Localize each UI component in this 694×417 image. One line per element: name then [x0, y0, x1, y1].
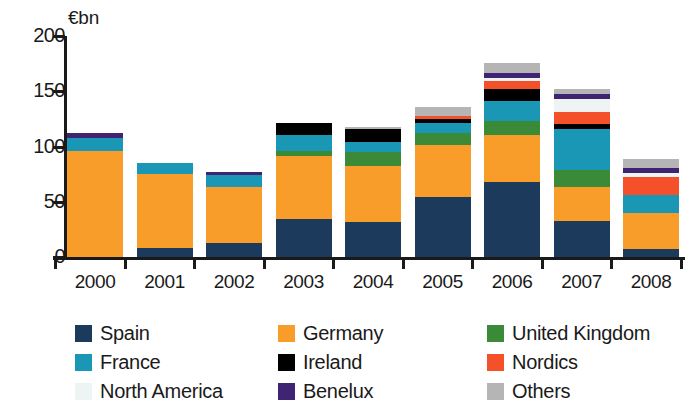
plot-area: €bn 050100150200 20002001200220032004200…: [0, 0, 694, 300]
legend-swatch-icon: [278, 354, 295, 371]
bar-segment-france: [276, 135, 332, 150]
x-axis-label-2004: 2004: [341, 272, 405, 292]
legend-item-others[interactable]: Others: [487, 378, 570, 404]
x-axis-tick-mark: [680, 260, 683, 269]
bar-2008: [623, 159, 679, 257]
x-axis-tick-mark: [263, 260, 266, 269]
legend-item-north-america[interactable]: North America: [75, 378, 223, 404]
y-axis-tick: 50: [0, 201, 65, 204]
bar-segment-france: [415, 123, 471, 133]
bar-2006: [484, 63, 540, 257]
bar-segment-france: [137, 163, 193, 174]
bar-segment-united-kingdom: [484, 121, 540, 135]
legend-label: Germany: [303, 322, 383, 344]
bar-segment-spain: [276, 219, 332, 257]
y-axis-tick-mark: [53, 201, 65, 204]
bar-segment-germany: [554, 187, 610, 220]
legend-swatch-icon: [278, 383, 295, 400]
x-axis-tick-mark: [193, 260, 196, 269]
legend-swatch-icon: [278, 325, 295, 342]
chart-legend: SpainFranceNorth AmericaGermanyIrelandBe…: [0, 318, 694, 417]
x-axis-label-2002: 2002: [202, 272, 266, 292]
bar-segment-germany: [137, 174, 193, 248]
bar-segment-others: [415, 107, 471, 116]
x-axis-tick-mark: [124, 260, 127, 269]
x-axis-line: [53, 257, 685, 260]
x-axis-label-2000: 2000: [63, 272, 127, 292]
x-axis-label-2006: 2006: [480, 272, 544, 292]
bar-segment-others: [484, 63, 540, 73]
legend-item-nordics[interactable]: Nordics: [487, 349, 578, 375]
bar-segment-spain: [415, 197, 471, 257]
y-axis-tick-mark: [53, 90, 65, 93]
legend-swatch-icon: [487, 325, 504, 342]
y-axis-tick: 200: [0, 35, 65, 38]
y-axis-tick-mark: [53, 146, 65, 149]
bar-segment-germany: [345, 166, 401, 221]
x-axis-tick-mark: [610, 260, 613, 269]
x-axis-label-2008: 2008: [619, 272, 683, 292]
y-axis-tick: 0: [0, 256, 65, 259]
bar-segment-spain: [554, 221, 610, 257]
y-axis-tick: 150: [0, 90, 65, 93]
bar-segment-germany: [623, 213, 679, 249]
legend-label: France: [100, 351, 160, 373]
legend-label: North America: [100, 380, 223, 402]
legend-label: Others: [512, 380, 570, 402]
legend-item-germany[interactable]: Germany: [278, 320, 383, 346]
x-axis-tick-mark: [471, 260, 474, 269]
bar-2003: [276, 123, 332, 257]
stacked-bar-chart: €bn 050100150200 20002001200220032004200…: [0, 0, 694, 417]
legend-item-france[interactable]: France: [75, 349, 160, 375]
bar-segment-germany: [206, 187, 262, 242]
bar-segment-united-kingdom: [554, 170, 610, 188]
legend-swatch-icon: [487, 354, 504, 371]
x-axis-tick-mark: [54, 260, 57, 269]
x-axis-tick-mark: [541, 260, 544, 269]
bar-segment-germany: [276, 156, 332, 219]
x-axis-label-2001: 2001: [133, 272, 197, 292]
legend-item-spain[interactable]: Spain: [75, 320, 150, 346]
bar-segment-france: [623, 195, 679, 213]
bar-segment-north-america: [554, 99, 610, 112]
legend-label: Benelux: [303, 380, 373, 402]
legend-label: Ireland: [303, 351, 362, 373]
legend-swatch-icon: [75, 383, 92, 400]
bar-segment-spain: [206, 243, 262, 257]
bar-segment-france: [345, 142, 401, 152]
bar-segment-nordics: [554, 112, 610, 124]
bar-2007: [554, 89, 610, 257]
bar-2001: [137, 163, 193, 257]
bar-2004: [345, 127, 401, 257]
bar-segment-germany: [484, 135, 540, 181]
bar-segment-ireland: [345, 129, 401, 142]
y-axis-unit-label: €bn: [68, 7, 99, 29]
y-axis-tick-mark: [53, 35, 65, 38]
bar-segment-spain: [137, 248, 193, 257]
legend-label: Nordics: [512, 351, 578, 373]
bar-segment-united-kingdom: [345, 152, 401, 166]
bar-segment-france: [484, 101, 540, 121]
y-axis-tick: 100: [0, 146, 65, 149]
legend-swatch-icon: [487, 383, 504, 400]
bar-segment-nordics: [623, 177, 679, 195]
legend-swatch-icon: [75, 354, 92, 371]
legend-item-benelux[interactable]: Benelux: [278, 378, 373, 404]
bar-2002: [206, 172, 262, 257]
bar-2000: [67, 133, 123, 257]
bar-segment-france: [554, 129, 610, 170]
bar-segment-united-kingdom: [415, 133, 471, 145]
bar-segment-france: [206, 175, 262, 187]
bar-segment-germany: [415, 145, 471, 197]
bar-segment-nordics: [484, 81, 540, 89]
x-axis-label-2005: 2005: [411, 272, 475, 292]
bar-segment-others: [623, 159, 679, 168]
x-axis-label-2003: 2003: [272, 272, 336, 292]
bar-segment-spain: [345, 222, 401, 257]
legend-item-united-kingdom[interactable]: United Kingdom: [487, 320, 650, 346]
legend-item-ireland[interactable]: Ireland: [278, 349, 362, 375]
x-axis-tick-mark: [332, 260, 335, 269]
bar-segment-spain: [623, 249, 679, 257]
bar-2005: [415, 107, 471, 257]
bar-segment-germany: [67, 151, 123, 257]
